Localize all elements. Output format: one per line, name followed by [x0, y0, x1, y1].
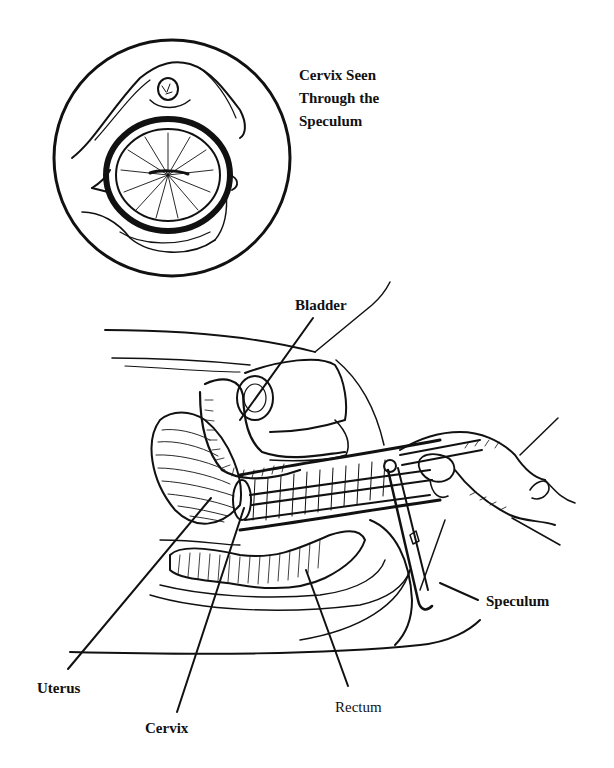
label-bladder: Bladder: [295, 298, 347, 313]
label-rectum: Rectum: [335, 700, 382, 715]
inset-caption-line-3: Speculum: [299, 110, 379, 133]
inset-caption-line-1: Cervix Seen: [299, 64, 379, 87]
label-speculum: Speculum: [486, 594, 549, 609]
label-cervix: Cervix: [145, 721, 188, 736]
inset-cervix-view: [54, 40, 290, 276]
inset-caption: Cervix Seen Through the Speculum: [299, 64, 379, 133]
inset-caption-line-2: Through the: [299, 87, 379, 110]
anatomical-illustration: Cervix Seen Through the Speculum Bladder…: [0, 0, 614, 768]
label-uterus: Uterus: [37, 681, 80, 696]
